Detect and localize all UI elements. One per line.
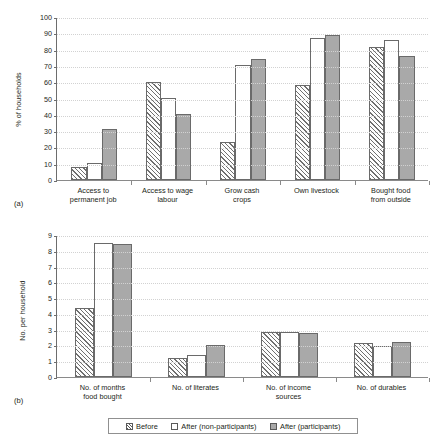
chart-panel-a: % of households (a) 01020304050607080901…	[0, 0, 435, 220]
legend-swatch-icon-after-non	[171, 423, 178, 430]
y-axis-tick-label: 1	[48, 359, 52, 366]
x-axis-category-label: No. of months food bought	[56, 383, 149, 402]
y-axis-tick	[54, 236, 58, 237]
bar-after-non	[94, 243, 113, 377]
x-axis-category-label: Own livestock	[279, 186, 353, 195]
y-axis-tick	[54, 34, 58, 35]
gridline	[57, 165, 428, 166]
gridline	[57, 18, 428, 19]
bars-container-b	[57, 236, 428, 377]
legend-item-before: Before	[126, 422, 158, 431]
x-axis-tick	[355, 181, 356, 185]
legend-swatch-icon-before	[126, 423, 133, 430]
y-axis-tick	[54, 315, 58, 316]
y-axis-tick	[54, 268, 58, 269]
y-axis-tick	[54, 67, 58, 68]
plot-area-b: 0123456789	[56, 236, 428, 378]
figure-container: % of households (a) 01020304050607080901…	[0, 0, 435, 447]
x-axis-category-label: No. of literates	[149, 383, 242, 392]
y-axis-tick-label: 7	[48, 264, 52, 271]
chart-panel-b: No. per household (b) 0123456789 No. of …	[0, 228, 435, 418]
bar-before	[71, 167, 86, 180]
y-axis-tick	[54, 362, 58, 363]
gridline	[57, 148, 428, 149]
gridline	[57, 268, 428, 269]
y-axis-label-b: No. per household	[18, 261, 27, 361]
x-axis-category-label: Bought food from outside	[354, 186, 428, 205]
y-axis-tick	[54, 51, 58, 52]
y-axis-tick-label: 4	[48, 311, 52, 318]
y-axis-tick-label: 30	[44, 128, 52, 135]
y-axis-tick	[54, 116, 58, 117]
bar-after-part	[399, 56, 414, 180]
legend-item-after-non: After (non-participants)	[171, 422, 257, 431]
gridline	[57, 236, 428, 237]
y-axis-tick-label: 6	[48, 280, 52, 287]
gridline	[57, 252, 428, 253]
y-axis-tick-label: 0	[48, 374, 52, 381]
y-axis-tick	[54, 378, 58, 379]
y-axis-tick	[54, 132, 58, 133]
bar-after-part	[206, 345, 225, 377]
x-axis-category-label: No. of income sources	[242, 383, 335, 402]
y-axis-tick-label: 5	[48, 296, 52, 303]
y-axis-tick-label: 10	[44, 161, 52, 168]
y-axis-tick-label: 70	[44, 63, 52, 70]
bar-group	[243, 236, 336, 377]
y-axis-tick-label: 90	[44, 31, 52, 38]
bar-after-part	[176, 114, 191, 180]
x-axis-category-label: No. of durables	[335, 383, 428, 392]
y-axis-tick-label: 8	[48, 248, 52, 255]
y-axis-tick-label: 50	[44, 96, 52, 103]
gridline	[57, 132, 428, 133]
y-axis-tick-label: 3	[48, 327, 52, 334]
y-axis-tick-label: 80	[44, 47, 52, 54]
x-axis-tick	[206, 181, 207, 185]
bar-after-non	[280, 332, 299, 377]
gridline	[57, 116, 428, 117]
y-axis-tick-label: 60	[44, 80, 52, 87]
bar-after-non	[384, 40, 399, 180]
y-axis-tick-label: 2	[48, 343, 52, 350]
y-axis-tick	[54, 83, 58, 84]
x-axis-category-label: Grow cash crops	[205, 186, 279, 205]
bar-before	[75, 308, 94, 377]
x-axis-tick	[429, 181, 430, 185]
gridline	[57, 51, 428, 52]
y-axis-tick-label: 20	[44, 145, 52, 152]
x-axis-tick	[429, 378, 430, 382]
y-axis-tick-label: 9	[48, 232, 52, 239]
y-axis-tick-label: 0	[48, 177, 52, 184]
y-axis-tick	[54, 346, 58, 347]
x-axis-category-label: Access to permanent job	[56, 186, 130, 205]
chart-legend: BeforeAfter (non-participants)After (par…	[108, 418, 358, 434]
x-axis-tick	[336, 378, 337, 382]
y-axis-tick-label: 40	[44, 112, 52, 119]
bar-group	[150, 236, 243, 377]
y-axis-tick	[54, 100, 58, 101]
bar-after-non	[161, 98, 176, 180]
bar-before	[168, 358, 187, 377]
bar-after-part	[102, 129, 117, 180]
bar-after-non	[187, 355, 206, 377]
gridline	[57, 283, 428, 284]
y-axis-tick	[54, 148, 58, 149]
gridline	[57, 299, 428, 300]
bar-after-part	[392, 342, 411, 377]
bar-after-part	[251, 59, 266, 180]
gridline	[57, 315, 428, 316]
legend-item-after-part: After (participants)	[270, 422, 341, 431]
gridline	[57, 67, 428, 68]
bar-before	[354, 343, 373, 377]
y-axis-tick	[54, 165, 58, 166]
plot-area-a: 0102030405060708090100	[56, 18, 428, 181]
y-axis-tick	[54, 18, 58, 19]
gridline	[57, 83, 428, 84]
legend-label: After (non-participants)	[181, 422, 256, 431]
bar-after-non	[310, 38, 325, 180]
panel-tag-b: (b)	[14, 396, 23, 405]
gridline	[57, 362, 428, 363]
y-axis-label-a: % of households	[14, 55, 23, 145]
gridline	[57, 100, 428, 101]
legend-label: Before	[136, 422, 158, 431]
